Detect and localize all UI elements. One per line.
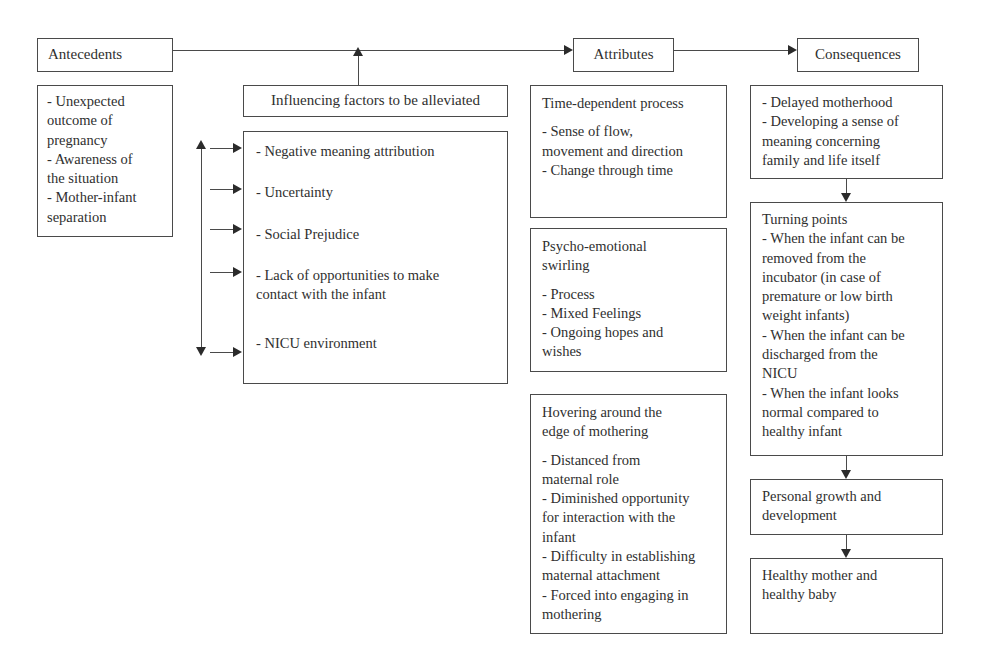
antecedents-detail-text: - Unexpected outcome of pregnancy - Awar… (47, 92, 163, 227)
attributes-group-1-title: Psycho-emotional swirling (542, 237, 715, 276)
attributes-group-0-title: Time-dependent process (542, 94, 715, 113)
influencing-item-0: - Negative meaning attribution (256, 142, 495, 161)
arrowhead-influencing-item-4-icon (233, 347, 242, 357)
connector-to-influencing-item-0 (210, 148, 234, 149)
arrowhead-into-attributes-icon (564, 45, 573, 55)
arrowhead-down-influencing-span-icon (196, 347, 206, 356)
attributes-group-1-body: - Process - Mixed Feelings - Ongoing hop… (542, 285, 715, 362)
attributes-group-2-body: - Distanced from maternal role - Diminis… (542, 451, 715, 625)
influencing-item-1: - Uncertainty (256, 183, 495, 202)
arrowhead-stage1-icon (841, 193, 851, 202)
attributes-group-2-title: Hovering around the edge of mothering (542, 403, 715, 442)
arrowhead-influencing-item-3-icon (233, 267, 242, 277)
attributes-group-0-body: - Sense of flow, movement and direction … (542, 122, 715, 180)
attributes-group-2-box: Hovering around the edge of mothering - … (530, 394, 727, 634)
influencing-item-4: - NICU environment (256, 334, 495, 353)
connector-stage0-to-stage1 (846, 179, 847, 194)
arrowhead-up-to-main-line-icon (353, 47, 363, 56)
consequences-header-label: Consequences (815, 45, 901, 65)
antecedents-header-box: Antecedents (37, 38, 173, 72)
connector-attributes-to-consequences (674, 50, 789, 51)
arrowhead-up-influencing-span-icon (196, 140, 206, 149)
connector-to-influencing-item-2 (210, 229, 234, 230)
arrowhead-influencing-item-2-icon (233, 224, 242, 234)
consequences-stage-1-body: - When the infant can be removed from th… (762, 229, 931, 441)
attributes-group-0-box: Time-dependent process - Sense of flow, … (530, 85, 727, 218)
connector-to-influencing-item-1 (210, 189, 234, 190)
influencing-factors-header-label: Influencing factors to be alleviated (271, 91, 480, 111)
consequences-stage-2-box: Personal growth and development (750, 479, 943, 535)
connector-antecedents-to-attributes (173, 50, 565, 51)
attributes-header-label: Attributes (594, 45, 654, 65)
consequences-stage-2-body: Personal growth and development (762, 487, 931, 526)
spacer (542, 113, 715, 122)
consequences-stage-0-body: - Delayed motherhood - Developing a sens… (762, 93, 931, 170)
arrowhead-stage3-icon (841, 549, 851, 558)
attributes-group-1-box: Psycho-emotional swirling - Process - Mi… (530, 228, 727, 372)
influencing-item-2: - Social Prejudice (256, 225, 495, 244)
arrowhead-influencing-item-1-icon (233, 184, 242, 194)
arrowhead-influencing-item-0-icon (233, 143, 242, 153)
connector-stage1-to-stage2 (846, 456, 847, 471)
connector-stage2-to-stage3 (846, 535, 847, 549)
consequences-stage-1-title: Turning points (762, 210, 931, 229)
consequences-stage-3-body: Healthy mother and healthy baby (762, 566, 931, 605)
spacer (542, 442, 715, 451)
spacer (542, 276, 715, 285)
arrowhead-into-consequences-icon (788, 45, 797, 55)
attributes-header-box: Attributes (573, 38, 674, 72)
influencing-item-3: - Lack of opportunities to make contact … (256, 266, 495, 305)
antecedents-header-label: Antecedents (48, 45, 122, 65)
consequences-header-box: Consequences (797, 38, 919, 72)
influencing-factors-list-box: - Negative meaning attribution - Uncerta… (243, 131, 508, 384)
antecedents-detail-box: - Unexpected outcome of pregnancy - Awar… (37, 85, 173, 237)
influencing-factors-header-box: Influencing factors to be alleviated (243, 85, 508, 117)
consequences-stage-1-box: Turning points - When the infant can be … (750, 202, 943, 456)
connector-influencing-to-main-line (358, 56, 359, 85)
connector-to-influencing-item-4 (210, 352, 234, 353)
connector-to-influencing-item-3 (210, 272, 234, 273)
connector-influencing-vertical-span (201, 148, 202, 348)
diagram-canvas: Antecedents - Unexpected outcome of preg… (0, 0, 985, 662)
consequences-stage-3-box: Healthy mother and healthy baby (750, 558, 943, 634)
arrowhead-stage2-icon (841, 470, 851, 479)
consequences-stage-0-box: - Delayed motherhood - Developing a sens… (750, 85, 943, 179)
